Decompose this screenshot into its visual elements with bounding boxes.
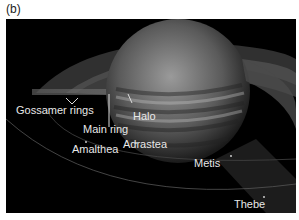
label-amalthea: Amalthea [72,144,118,155]
label-adrastea: Adrastea [123,139,167,150]
label-halo: Halo [133,111,156,122]
label-thebe: Thebe [234,199,265,210]
panel-label: (b) [6,2,21,16]
label-main-ring: Main ring [83,124,128,135]
label-metis: Metis [194,158,220,169]
label-gossamer-rings: Gossamer rings [16,105,94,116]
jupiter-ring-diagram: Gossamer rings Main ring Halo Amalthea A… [6,19,296,213]
